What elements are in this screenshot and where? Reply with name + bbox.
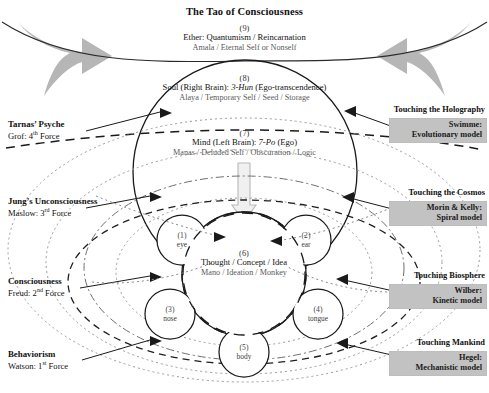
model-box-wilber: Wilber: Kinetic model xyxy=(389,284,487,309)
layer-soul-line1-c: (Ego-transcendence) xyxy=(255,82,326,92)
model-box-hegel: Hegel: Mechanistic model xyxy=(389,351,487,376)
sense-label-1: (1) eye xyxy=(157,232,207,249)
left-label-tarnas-sub: Grof: 4th Force xyxy=(8,130,64,141)
layer-mind-line1-c: (Ego) xyxy=(277,137,297,147)
layer-ether: (9) Ether: Quantumism / Reincarnation Am… xyxy=(0,24,489,52)
left-label-behaviorism-sub-post: Force xyxy=(46,361,68,371)
model-box-hegel-name: Hegel: xyxy=(394,353,482,363)
left-label-tarnas-sub-post: Force xyxy=(38,131,60,141)
layer-ether-line2: Amala / Eternal Self or Nonself xyxy=(0,43,489,52)
layer-mind-line2: Manas / Deluded Self / Obscuration / Log… xyxy=(0,148,489,157)
model-box-swimme: Swimme: Evolutionary model xyxy=(389,118,487,143)
left-label-consciousness-title: Consciousness xyxy=(8,277,65,287)
right-label-holography-title: Touching the Holography xyxy=(359,105,485,114)
layer-thought-line2: Mano / Ideation / Monkey xyxy=(144,268,344,277)
layer-thought-line1: Thought / Concept / Idea xyxy=(144,258,344,268)
layer-mind-line1-a: Mind (Left Brain): xyxy=(192,137,256,147)
left-label-tarnas: Tarnas’ Psyche Grof: 4th Force xyxy=(8,120,64,141)
sense-2-label: ear xyxy=(281,241,331,249)
left-label-tarnas-sub-pre: Grof: 4 xyxy=(8,131,33,141)
layer-soul-line1-b: 3-Hun xyxy=(231,82,253,92)
sense-1-label: eye xyxy=(157,241,207,249)
sense-3-label: nose xyxy=(145,315,195,323)
left-label-behaviorism-title: Behaviorism xyxy=(8,350,68,360)
layer-soul-line1: Soul (Right Brain): 3-Hun (Ego-transcend… xyxy=(0,83,489,93)
page-title: The Tao of Consciousness xyxy=(0,6,489,18)
right-label-cosmos-title: Touching the Cosmos xyxy=(359,188,485,197)
sense-4-label: tongue xyxy=(293,315,343,323)
model-box-swimme-type: Evolutionary model xyxy=(394,130,482,140)
layer-soul-line2: Alaya / Temporary Self / Seed / Storage xyxy=(0,93,489,102)
model-box-swimme-name: Swimme: xyxy=(394,120,482,130)
layer-soul-line1-a: Soul (Right Brain): xyxy=(163,82,229,92)
left-label-consciousness-sub-pre: Freud: 2 xyxy=(8,288,37,298)
left-label-consciousness-sub-post: Force xyxy=(43,288,65,298)
layer-mind-line1-b: 7-Po xyxy=(259,137,276,147)
left-label-jung-sub: Maslow: 3rd Force xyxy=(8,207,97,218)
sense-label-2: (2) ear xyxy=(281,232,331,249)
model-box-morin-kelly-type: Spiral model xyxy=(394,213,482,223)
model-box-morin-kelly: Morin & Kelly: Spiral model xyxy=(389,201,487,226)
left-label-jung-title: Jung’s Unconsciousness xyxy=(8,197,97,207)
left-label-consciousness: Consciousness Freud: 2nd Force xyxy=(8,277,65,298)
right-label-biosphere-title: Touching Biosphere xyxy=(359,271,485,280)
model-box-wilber-type: Kinetic model xyxy=(394,296,482,306)
model-box-morin-kelly-name: Morin & Kelly: xyxy=(394,203,482,213)
layer-soul: (8) Soul (Right Brain): 3-Hun (Ego-trans… xyxy=(0,74,489,102)
left-label-jung: Jung’s Unconsciousness Maslow: 3rd Force xyxy=(8,197,97,218)
left-label-jung-sub-pre: Maslow: 3 xyxy=(8,208,45,218)
sense-label-3: (3) nose xyxy=(145,306,195,323)
sense-5-label: body xyxy=(219,353,269,361)
right-label-mankind-title: Touching Mankind xyxy=(359,338,485,347)
model-box-wilber-name: Wilber: xyxy=(394,286,482,296)
left-label-behaviorism: Behaviorism Watson: 1st Force xyxy=(8,350,68,371)
layer-ether-line1: Ether: Quantumism / Reincarnation xyxy=(0,33,489,43)
left-label-tarnas-title: Tarnas’ Psyche xyxy=(8,120,64,130)
sense-label-5: (5) body xyxy=(219,344,269,361)
left-label-jung-sub-post: Force xyxy=(50,208,72,218)
left-label-behaviorism-sub: Watson: 1st Force xyxy=(8,360,68,371)
model-box-hegel-type: Mechanistic model xyxy=(394,363,482,373)
sense-label-4: (4) tongue xyxy=(293,306,343,323)
layer-thought: (6) Thought / Concept / Idea Mano / Idea… xyxy=(144,249,344,277)
left-label-consciousness-sub: Freud: 2nd Force xyxy=(8,287,65,298)
left-label-behaviorism-sub-pre: Watson: 1 xyxy=(8,361,42,371)
